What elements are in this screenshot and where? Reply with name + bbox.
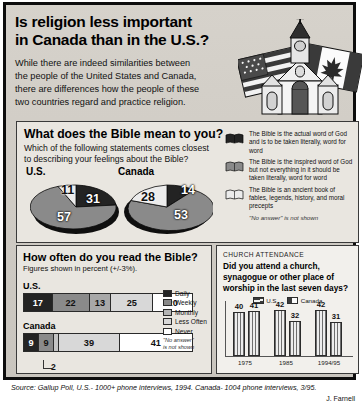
church-bar-group-199495: 42 31 bbox=[315, 310, 342, 356]
reading-note-line2: is not shown bbox=[163, 344, 207, 351]
canada-bible-pie-chart: 14 53 28 bbox=[121, 174, 213, 236]
us-seg-less-often: 25 bbox=[111, 294, 153, 311]
bar-value-canada-1985: 32 bbox=[291, 311, 299, 320]
church-year-label-1975: 1975 bbox=[227, 359, 263, 366]
reading-panel-title: How often do you read the Bible? bbox=[23, 251, 211, 263]
church-panel-kicker: CHURCH ATTENDANCE bbox=[223, 251, 358, 258]
bible-meaning-panel: What does the Bible mean to you? Which o… bbox=[16, 121, 359, 243]
reading-panel-subtitle: Figures shown in percent (+/-3%). bbox=[23, 264, 211, 273]
reading-legend-item-less-often: Less Often bbox=[163, 318, 207, 325]
church-year-label-199495: 1994/95 bbox=[309, 359, 349, 366]
header-subtitle-line1: While there are indeed similarities betw… bbox=[15, 57, 267, 70]
swatch-monthly-icon bbox=[163, 309, 172, 316]
us-seg-weekly: 22 bbox=[53, 294, 90, 311]
legend-text-ancient-book: The Bible is an ancient book of fables, … bbox=[249, 186, 355, 211]
canada-seg-less-often: 39 bbox=[59, 334, 119, 351]
header-subtitle: While there are indeed similarities betw… bbox=[15, 57, 267, 109]
page-title-line2: in Canada than in the U.S.? bbox=[15, 31, 267, 49]
header-subtitle-line2: the people of the United States and Cana… bbox=[15, 70, 267, 83]
bar-value-us-1985: 42 bbox=[276, 300, 284, 309]
church-attendance-panel: CHURCH ATTENDANCE Did you attend a churc… bbox=[216, 245, 359, 374]
infographic-frame: Is religion less important in Canada tha… bbox=[3, 2, 356, 380]
canada-monthly-callout: 2 bbox=[51, 362, 56, 372]
church-question-line1: Did you attend a church, bbox=[223, 261, 358, 272]
us-seg-daily: 17 bbox=[24, 294, 53, 311]
bar-canada-199495: 31 bbox=[330, 322, 342, 356]
church-question-line2: synagogue or other place of bbox=[223, 272, 358, 283]
page-title-line1: Is religion less important bbox=[15, 13, 192, 30]
legend-item-ancient-book: The Bible is an ancient book of fables, … bbox=[225, 186, 355, 211]
reading-legend-text-monthly: Monthly bbox=[175, 309, 198, 316]
church-year-label-1985: 1985 bbox=[268, 359, 304, 366]
reading-legend-text-never: Never bbox=[175, 328, 193, 335]
header-subtitle-line4: two countries regard and practice religi… bbox=[15, 96, 267, 109]
canada-pie-value-actual-word: 14 bbox=[181, 183, 195, 197]
reading-legend-item-weekly: Weekly bbox=[163, 299, 207, 306]
church-attendance-bar-chart: 40 41 42 32 bbox=[225, 301, 353, 357]
legend-text-inspired-word: The Bible is the inspired word of God bu… bbox=[249, 158, 355, 183]
us-pie-value-ancient-book: 11 bbox=[61, 183, 74, 197]
church-bar-group-1985: 42 32 bbox=[274, 310, 301, 356]
legend-text-actual-word: The Bible is the actual word of God and … bbox=[249, 130, 355, 155]
reading-legend-text-less-often: Less Often bbox=[175, 318, 207, 325]
reading-legend: Daily Weekly Monthly Less Often Never bbox=[163, 290, 207, 351]
bar-value-canada-1975: 41 bbox=[250, 301, 258, 310]
header: Is religion less important in Canada tha… bbox=[15, 13, 267, 109]
bar-value-canada-199495: 31 bbox=[332, 312, 340, 321]
us-pie-value-inspired-word: 57 bbox=[57, 210, 71, 224]
bar-canada-1985: 32 bbox=[289, 321, 301, 356]
bar-us-1985: 42 bbox=[274, 310, 286, 356]
bible-pie-legend: The Bible is the actual word of God and … bbox=[225, 130, 355, 221]
church-flags-illustration-icon bbox=[238, 19, 362, 119]
reading-legend-text-daily: Daily bbox=[175, 290, 190, 297]
swatch-never-icon bbox=[163, 328, 172, 335]
book-medium-icon bbox=[225, 159, 244, 172]
source-note: Source: Gallup Poll, U.S.- 1000+ phone i… bbox=[11, 383, 316, 392]
header-subtitle-line3: there are differences how the people of … bbox=[15, 83, 267, 96]
canada-pie-value-inspired-word: 53 bbox=[174, 208, 188, 222]
credit-byline: J. Farnell bbox=[326, 395, 355, 402]
infographic-root: Is religion less important in Canada tha… bbox=[0, 0, 363, 407]
bar-canada-1975: 41 bbox=[248, 311, 260, 356]
swatch-less-often-icon bbox=[163, 318, 172, 325]
reading-legend-item-monthly: Monthly bbox=[163, 309, 207, 316]
reading-note-line1: "No answer" bbox=[163, 337, 207, 344]
canada-seg-weekly: 9 bbox=[39, 334, 54, 351]
reading-legend-item-daily: Daily bbox=[163, 290, 207, 297]
reading-legend-text-weekly: Weekly bbox=[175, 299, 197, 306]
legend-item-actual-word: The Bible is the actual word of God and … bbox=[225, 130, 355, 155]
book-light-icon bbox=[225, 187, 244, 200]
us-pie-value-actual-word: 31 bbox=[86, 192, 100, 206]
bar-us-1975: 40 bbox=[233, 312, 245, 356]
bible-legend-note: "No answer" is not shown bbox=[249, 214, 355, 221]
canada-seg-daily: 9 bbox=[24, 334, 39, 351]
bar-value-us-1975: 40 bbox=[235, 302, 243, 311]
us-bible-pie-chart: 31 57 11 bbox=[30, 174, 122, 236]
legend-item-inspired-word: The Bible is the inspired word of God bu… bbox=[225, 158, 355, 183]
canada-pie-value-ancient-book: 28 bbox=[141, 190, 155, 204]
bible-reading-panel: How often do you read the Bible? Figures… bbox=[16, 245, 212, 374]
page-title: Is religion less important in Canada tha… bbox=[15, 13, 267, 50]
reading-legend-item-never: Never bbox=[163, 328, 207, 335]
book-dark-icon bbox=[225, 131, 244, 144]
us-seg-monthly: 13 bbox=[90, 294, 112, 311]
church-bar-group-1975: 40 41 bbox=[233, 311, 260, 356]
bar-us-199495: 42 bbox=[315, 310, 327, 356]
swatch-daily-icon bbox=[163, 290, 172, 297]
swatch-weekly-icon bbox=[163, 299, 172, 306]
bar-value-us-199495: 42 bbox=[317, 300, 325, 309]
church-question-line3: worship in the last seven days? bbox=[223, 283, 358, 294]
